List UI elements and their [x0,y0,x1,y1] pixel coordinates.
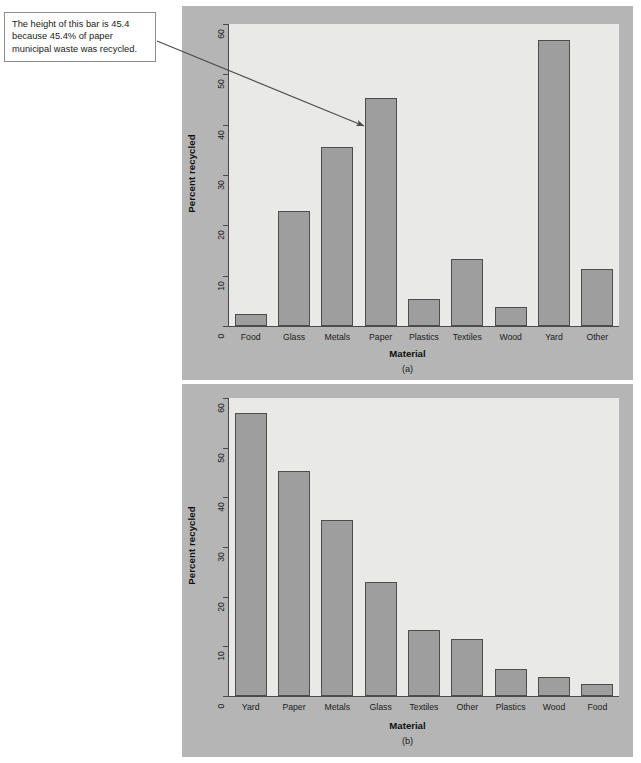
chart-a-x-label-food: Food [229,332,272,342]
bar-food [581,684,613,696]
bar-yard [235,413,267,696]
chart-a-x-label-paper: Paper [359,332,402,342]
chart-b-x-label-paper: Paper [272,702,315,712]
chart-b-x-label-yard: Yard [229,702,272,712]
chart-b-y-tick-label: 50 [216,447,226,469]
chart-b-y-tick-label: 20 [216,596,226,618]
chart-b-y-tick-label: 10 [216,645,226,667]
chart-a-bars [229,24,619,326]
bar-yard [538,40,570,326]
chart-a-y-tick-label: 0 [216,325,226,347]
bar-plastics [408,299,440,326]
chart-b-y-tick-label: 60 [216,397,226,419]
chart-b-bars [229,398,619,696]
bar-textiles [451,259,483,326]
chart-a-caption: (a) [182,364,633,374]
chart-a-y-axis-line [228,24,229,326]
chart-a-y-tick-label: 40 [216,124,226,146]
bar-paper [278,471,310,696]
chart-a-y-tick-label: 30 [216,174,226,196]
chart-a-x-label-wood: Wood [489,332,532,342]
chart-a-plot-wrapper: 0102030405060Percent recycledFoodGlassMe… [182,6,633,380]
chart-a-x-axis-line [228,326,619,327]
chart-a-y-tick-label: 50 [216,73,226,95]
chart-a-y-tick-label: 20 [216,224,226,246]
bar-glass [278,211,310,326]
chart-panel-a: 0102030405060Percent recycledFoodGlassMe… [182,6,633,380]
bar-textiles [408,630,440,696]
bar-food [235,314,267,326]
chart-b-plot-wrapper: 0102030405060Percent recycledYardPaperMe… [182,384,633,757]
chart-b-y-tick-label: 40 [216,496,226,518]
bar-other [581,269,613,326]
chart-a-x-axis-title: Material [182,348,633,359]
chart-a-x-label-other: Other [576,332,619,342]
chart-b-y-axis-title: Percent recycled [186,397,197,695]
chart-b-x-label-metals: Metals [316,702,359,712]
bar-wood [538,677,570,696]
chart-a-plot-area [229,24,619,326]
bar-glass [365,582,397,696]
chart-b-x-label-wood: Wood [532,702,575,712]
annotation-callout-text: The height of this bar is 45.4 because 4… [12,19,137,54]
chart-b-plot-area [229,398,619,696]
chart-a-x-label-plastics: Plastics [402,332,445,342]
bar-other [451,639,483,696]
bar-paper [365,98,397,327]
annotation-callout-box: The height of this bar is 45.4 because 4… [4,12,156,62]
chart-panel-b: 0102030405060Percent recycledYardPaperMe… [182,384,633,757]
chart-b-y-tick-label: 30 [216,546,226,568]
chart-a-y-tick-label: 60 [216,23,226,45]
bar-metals [321,520,353,696]
chart-b-x-axis-line [228,696,619,697]
bar-wood [495,307,527,326]
chart-a-y-axis-title: Percent recycled [186,23,197,325]
chart-b-x-label-other: Other [446,702,489,712]
chart-b-x-axis-title: Material [182,720,633,731]
chart-b-x-label-glass: Glass [359,702,402,712]
chart-b-y-tick-label: 0 [216,695,226,717]
chart-a-x-label-textiles: Textiles [446,332,489,342]
chart-b-y-axis-line [228,398,229,696]
chart-b-caption: (b) [182,736,633,746]
chart-a-x-label-metals: Metals [316,332,359,342]
chart-b-x-label-textiles: Textiles [402,702,445,712]
bar-plastics [495,669,527,696]
chart-a-x-label-glass: Glass [272,332,315,342]
chart-a-y-tick-label: 10 [216,275,226,297]
chart-b-x-label-plastics: Plastics [489,702,532,712]
bar-metals [321,147,353,326]
chart-b-x-label-food: Food [576,702,619,712]
chart-a-x-label-yard: Yard [532,332,575,342]
